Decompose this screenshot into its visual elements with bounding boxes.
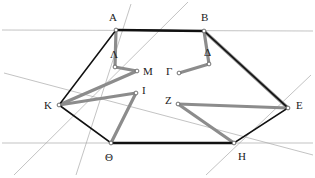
vertex-marker-e — [286, 106, 290, 110]
hexagon-ABEHThetaK — [59, 30, 288, 143]
vertex-marker-h — [232, 141, 236, 145]
point-label-k: K — [44, 100, 52, 111]
vertex-marker-m — [135, 69, 139, 73]
geometry-figure — [0, 0, 315, 178]
vertex-marker-b — [202, 29, 206, 33]
line-through-E-H — [206, 75, 311, 175]
point-label-theta: Θ — [105, 152, 113, 163]
hexagon-heavy-edges-group — [111, 30, 234, 143]
gray-polylines-group — [59, 30, 288, 143]
vertex-marker-delta — [207, 62, 211, 66]
vertex-markers-group — [57, 28, 290, 145]
edge-A-B — [116, 30, 204, 31]
vertex-marker-lambda — [113, 65, 117, 69]
hexagon-outline-group — [59, 30, 288, 143]
point-label-z: Z — [165, 95, 172, 106]
point-label-m: M — [143, 66, 153, 77]
vertex-marker-z — [176, 102, 180, 106]
point-label-delta: Δ — [204, 47, 211, 58]
point-label-h: H — [238, 151, 246, 162]
point-label-gamma: Γ — [166, 66, 172, 77]
vertex-marker-i — [134, 91, 138, 95]
polyline-Z-E — [178, 104, 288, 108]
point-label-a: A — [109, 12, 117, 23]
diagram-canvas: ABEHΘKΛMΓΔIZ — [0, 0, 315, 178]
point-label-e: E — [296, 100, 303, 111]
point-label-i: I — [142, 85, 146, 96]
vertex-marker-a — [114, 28, 118, 32]
polyline-Z-H — [178, 104, 234, 143]
vertex-marker-k — [57, 103, 61, 107]
line-through-B-K — [14, 2, 188, 175]
point-label-lambda: Λ — [110, 49, 118, 60]
point-label-b: B — [201, 12, 208, 23]
vertex-marker-theta — [109, 141, 113, 145]
vertex-marker-gamma — [177, 71, 181, 75]
